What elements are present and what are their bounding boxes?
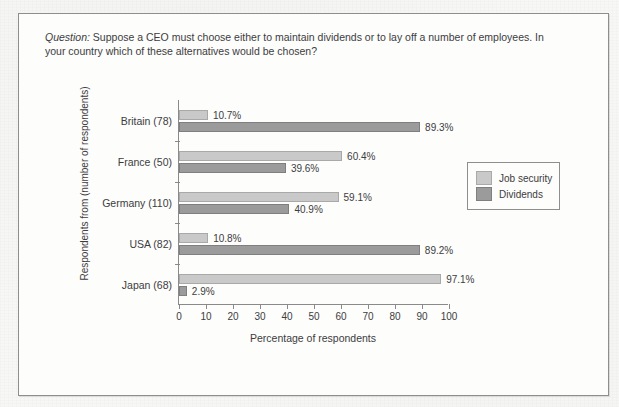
y-axis-label-usa: USA (82): [129, 238, 172, 250]
bar-value-label: 97.1%: [446, 275, 474, 285]
x-axis-title: Percentage of respondents: [178, 332, 448, 344]
x-axis-tick: [206, 304, 207, 309]
bar-value-label: 89.2%: [425, 246, 453, 256]
legend-swatch-icon: [476, 187, 492, 201]
bar-japan-dividends: [179, 286, 187, 296]
x-axis-tick: [287, 304, 288, 309]
x-axis-tick: [422, 304, 423, 309]
bar-value-label: 60.4%: [347, 152, 375, 162]
bar-germany-dividends: [179, 204, 289, 214]
x-axis-tick: [449, 304, 450, 309]
y-axis-label-france: France (50): [118, 156, 172, 168]
legend-item-dividends: Dividends: [476, 187, 551, 201]
x-axis-tick-label: 90: [416, 311, 427, 322]
x-axis-tick-label: 0: [176, 311, 182, 322]
y-axis-tick: [175, 182, 180, 183]
x-axis-tick: [233, 304, 234, 309]
x-axis-tick: [368, 304, 369, 309]
x-axis-tick-label: 20: [227, 311, 238, 322]
bar-germany-job-security: [179, 192, 339, 202]
y-axis-tick: [175, 141, 180, 142]
y-axis-label-britain: Britain (78): [121, 115, 172, 127]
bar-value-label: 89.3%: [425, 123, 453, 133]
x-axis-tick: [341, 304, 342, 309]
legend-label: Dividends: [499, 189, 543, 200]
bar-usa-dividends: [179, 245, 420, 255]
legend-item-job-security: Job security: [476, 171, 551, 185]
y-axis-tick: [175, 264, 180, 265]
bar-value-label: 2.9%: [192, 287, 215, 297]
bar-france-dividends: [179, 163, 286, 173]
bar-value-label: 10.8%: [213, 234, 241, 244]
y-axis-label-japan: Japan (68): [122, 279, 172, 291]
bar-usa-job-security: [179, 233, 208, 243]
legend-label: Job security: [499, 173, 552, 184]
y-axis-tick: [175, 223, 180, 224]
x-axis-tick: [260, 304, 261, 309]
legend-swatch-icon: [476, 171, 492, 185]
x-axis-tick: [314, 304, 315, 309]
bar-value-label: 10.7%: [213, 111, 241, 121]
x-axis-tick-label: 60: [335, 311, 346, 322]
x-axis-tick-label: 70: [362, 311, 373, 322]
x-axis-tick-label: 40: [281, 311, 292, 322]
bar-japan-job-security: [179, 274, 441, 284]
x-axis-tick: [179, 304, 180, 309]
bar-britain-job-security: [179, 110, 208, 120]
bar-value-label: 40.9%: [294, 205, 322, 215]
x-axis-tick-label: 10: [200, 311, 211, 322]
bar-value-label: 39.6%: [291, 164, 319, 174]
x-axis-tick: [395, 304, 396, 309]
chart: Respondents from (number of respondents)…: [0, 0, 619, 407]
x-axis-tick-label: 30: [254, 311, 265, 322]
x-axis-tick-label: 80: [389, 311, 400, 322]
bar-france-job-security: [179, 151, 342, 161]
y-axis-label-germany: Germany (110): [102, 197, 172, 209]
plot-area: 10.7%89.3%60.4%39.6%59.1%40.9%10.8%89.2%…: [178, 100, 448, 305]
bar-britain-dividends: [179, 122, 420, 132]
bar-value-label: 59.1%: [344, 193, 372, 203]
x-axis-tick-label: 100: [441, 311, 458, 322]
y-axis-tick-labels: Britain (78)France (50)Germany (110)USA …: [0, 100, 172, 305]
legend: Job security Dividends: [467, 162, 560, 210]
x-axis-tick-label: 50: [308, 311, 319, 322]
